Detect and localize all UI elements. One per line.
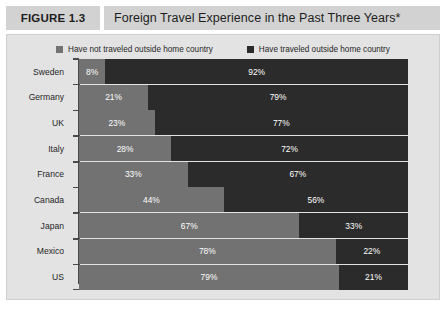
category-label: Canada	[7, 195, 73, 205]
chart-panel: Have not traveled outside home country H…	[6, 34, 440, 300]
bar-value-label: 23%	[108, 118, 125, 128]
legend-item-traveled: Have traveled outside home country	[247, 45, 390, 54]
bar-value-label: 8%	[86, 67, 98, 77]
bar-segment-not-traveled: 79%	[79, 265, 339, 290]
bar-value-label: 77%	[273, 118, 290, 128]
category-label: Germany	[7, 92, 73, 102]
figure-number-label: FIGURE 1.3	[21, 12, 86, 24]
bar-segment-not-traveled: 33%	[79, 162, 188, 187]
bar-value-label: 92%	[248, 67, 265, 77]
plot-area: Sweden8%92%Germany21%79%UK23%77%Italy28%…	[7, 59, 439, 299]
bar-segment-traveled: 21%	[339, 265, 408, 290]
bar-value-label: 78%	[199, 246, 216, 256]
category-label: Japan	[7, 221, 73, 231]
figure-container: FIGURE 1.3 Foreign Travel Experience in …	[0, 0, 446, 309]
bar-row: France33%67%	[7, 162, 439, 187]
bar-track: 67%33%	[79, 213, 408, 238]
bar-track: 79%21%	[79, 265, 408, 290]
bar-segment-traveled: 72%	[171, 136, 408, 161]
category-label: Sweden	[7, 67, 73, 77]
bar-track: 28%72%	[79, 136, 408, 161]
bar-track: 21%79%	[79, 85, 408, 110]
figure-title-band: Foreign Travel Experience in the Past Th…	[104, 6, 440, 30]
bar-segment-traveled: 92%	[105, 59, 408, 84]
bar-row: Germany21%79%	[7, 85, 439, 110]
bar-value-label: 67%	[289, 169, 306, 179]
square-swatch-icon	[247, 46, 254, 53]
bar-value-label: 33%	[345, 221, 362, 231]
bar-row: UK23%77%	[7, 110, 439, 135]
bar-value-label: 21%	[105, 92, 122, 102]
bar-segment-traveled: 79%	[148, 85, 408, 110]
chart-legend: Have not traveled outside home country H…	[7, 41, 439, 57]
bar-value-label: 79%	[270, 92, 287, 102]
bar-track: 8%92%	[79, 59, 408, 84]
figure-title-bar: FIGURE 1.3 Foreign Travel Experience in …	[6, 6, 440, 30]
category-label: Italy	[7, 144, 73, 154]
figure-title: Foreign Travel Experience in the Past Th…	[114, 11, 400, 25]
bar-value-label: 72%	[281, 144, 298, 154]
bar-segment-traveled: 33%	[299, 213, 408, 238]
legend-label-traveled: Have traveled outside home country	[259, 45, 390, 54]
bar-segment-not-traveled: 21%	[79, 85, 148, 110]
bar-segment-not-traveled: 23%	[79, 110, 155, 135]
bar-segment-not-traveled: 67%	[79, 213, 299, 238]
bar-segment-not-traveled: 78%	[79, 239, 336, 264]
bar-segment-not-traveled: 44%	[79, 187, 224, 212]
bar-track: 23%77%	[79, 110, 408, 135]
bar-row: Canada44%56%	[7, 187, 439, 212]
legend-label-not-traveled: Have not traveled outside home country	[68, 45, 213, 54]
bar-value-label: 33%	[125, 169, 142, 179]
bar-row: US79%21%	[7, 265, 439, 290]
bar-track: 78%22%	[79, 239, 408, 264]
bar-segment-traveled: 77%	[155, 110, 408, 135]
square-swatch-icon	[56, 46, 63, 53]
figure-number-badge: FIGURE 1.3	[6, 6, 100, 30]
bar-row: Japan67%33%	[7, 213, 439, 238]
category-label: France	[7, 169, 73, 179]
bar-value-label: 56%	[307, 195, 324, 205]
category-label: UK	[7, 118, 73, 128]
bar-segment-not-traveled: 28%	[79, 136, 171, 161]
bar-value-label: 28%	[117, 144, 134, 154]
bar-value-label: 21%	[365, 272, 382, 282]
bar-track: 44%56%	[79, 187, 408, 212]
category-label: US	[7, 272, 73, 282]
bar-row: Mexico78%22%	[7, 239, 439, 264]
bar-track: 33%67%	[79, 162, 408, 187]
bar-row: Italy28%72%	[7, 136, 439, 161]
bar-value-label: 67%	[181, 221, 198, 231]
bar-segment-traveled: 56%	[224, 187, 408, 212]
bar-row: Sweden8%92%	[7, 59, 439, 84]
bar-rows: Sweden8%92%Germany21%79%UK23%77%Italy28%…	[7, 59, 439, 290]
legend-item-not-traveled: Have not traveled outside home country	[56, 45, 213, 54]
bar-segment-traveled: 67%	[188, 162, 408, 187]
bar-segment-not-traveled: 8%	[79, 59, 105, 84]
bar-segment-traveled: 22%	[336, 239, 408, 264]
bar-value-label: 44%	[143, 195, 160, 205]
bar-value-label: 79%	[201, 272, 218, 282]
category-label: Mexico	[7, 246, 73, 256]
bar-value-label: 22%	[363, 246, 380, 256]
